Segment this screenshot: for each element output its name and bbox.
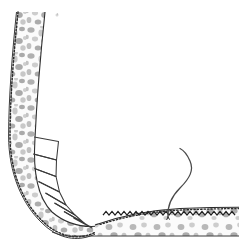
figure-canvas: Pen-and-ink histological drawing of an L… bbox=[0, 0, 239, 250]
band-inner-edge-line bbox=[34, 12, 100, 226]
ink-speck bbox=[56, 13, 59, 16]
histology-illustration bbox=[0, 0, 239, 250]
filament-strand bbox=[168, 149, 192, 218]
cell-segment bbox=[33, 154, 56, 177]
cell-segment bbox=[33, 137, 58, 160]
